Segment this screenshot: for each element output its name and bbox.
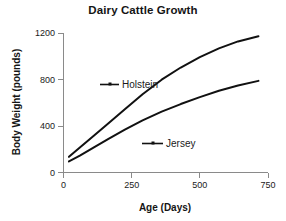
jersey-leader-marker [152, 142, 155, 145]
x-tick-label-750: 750 [260, 180, 275, 190]
x-axis-title: Age (Days) [139, 202, 191, 213]
x-tick-label-250: 250 [124, 180, 139, 190]
y-tick-label-400: 400 [40, 121, 55, 131]
data-curve-jersey [69, 81, 259, 162]
y-tick-label-0: 0 [50, 168, 55, 178]
chart-screenshot: Dairy Cattle Growth 0 400 800 1200 0 250… [0, 0, 286, 221]
annotation-jersey: Jersey [142, 138, 195, 149]
y-tick-label-800: 800 [40, 75, 55, 85]
x-tick-label-500: 500 [192, 180, 207, 190]
x-tick-label-0: 0 [61, 180, 66, 190]
holstein-leader-marker [109, 83, 112, 86]
annotation-label-holstein: Holstein [122, 79, 158, 90]
chart-plot-area: 0 400 800 1200 0 250 500 750 Age (Days) … [0, 0, 286, 221]
annotation-label-jersey: Jersey [166, 138, 195, 149]
data-curve-holstein [69, 36, 259, 157]
y-tick-label-1200: 1200 [35, 28, 55, 38]
y-axis-title: Body Weight (pounds) [11, 49, 22, 155]
annotation-holstein: Holstein [100, 79, 158, 90]
